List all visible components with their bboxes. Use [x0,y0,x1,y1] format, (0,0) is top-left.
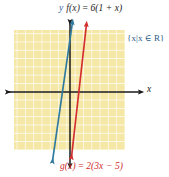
graph-figure: y y f(x) = 6(1 + x) g(x) = 2(3x − 5) {x|… [0,0,169,177]
coordinate-plane [0,0,169,177]
function-g-expression: 2(3x − 5) [86,161,123,171]
function-f-expression: 6(1 + x) [90,3,122,13]
function-g-label: g(x) = 2(3x − 5) [60,162,123,172]
function-g-name: g(x) [60,161,76,171]
function-f-name: f(x) [66,3,80,13]
function-f-label: y f(x) = 6(1 + x) [59,4,122,14]
x-axis-label: x [147,85,151,95]
domain-set-notation: {x|x ∈ R} [127,34,165,43]
